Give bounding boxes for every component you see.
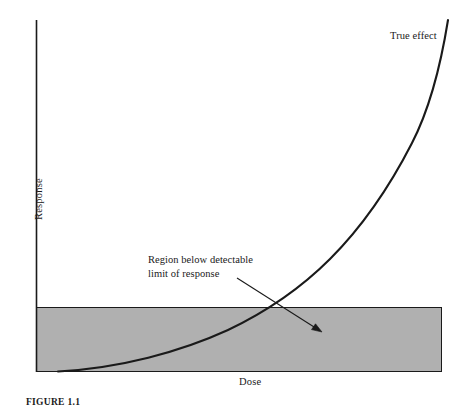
region-note-label: Region below detectablelimit of response [148, 253, 253, 280]
y-axis-label: Response [33, 178, 44, 220]
figure-container: True effect Region below detectablelimit… [0, 0, 467, 407]
figure-caption: FIGURE 1.1 [26, 397, 80, 407]
region-note-line-2: limit of response [148, 268, 219, 279]
true-effect-label: True effect [390, 30, 437, 41]
dose-response-plot [0, 0, 467, 407]
region-note-line-1: Region below detectable [148, 254, 253, 265]
shaded-detection-limit-region [37, 308, 442, 372]
x-axis-label: Dose [239, 376, 261, 387]
